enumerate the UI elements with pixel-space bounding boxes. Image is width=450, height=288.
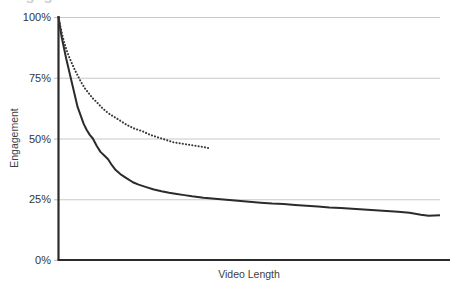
y-axis-tick-labels: 100% 75% 50% 25% 0% bbox=[0, 0, 51, 288]
y-tick-label: 25% bbox=[5, 193, 51, 205]
y-tick-label: 100% bbox=[5, 11, 51, 23]
x-axis-label: Video Length bbox=[58, 268, 440, 281]
axis-lines bbox=[58, 16, 450, 260]
series-line bbox=[59, 17, 441, 216]
y-tick-label: 0% bbox=[5, 254, 51, 266]
y-tick-label: 75% bbox=[5, 72, 51, 84]
data-series bbox=[59, 17, 441, 216]
series-line bbox=[59, 17, 210, 148]
gridlines bbox=[59, 18, 441, 200]
chart-figure: Engagement Curve Engagement Video Length… bbox=[0, 0, 450, 288]
y-tick-label: 50% bbox=[5, 133, 51, 145]
plot-area bbox=[0, 0, 450, 288]
